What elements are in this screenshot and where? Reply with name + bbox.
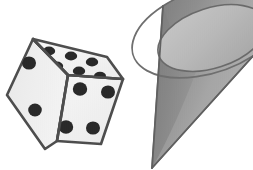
shapes-illustration (0, 0, 253, 170)
scan-texture-overlay (0, 0, 253, 170)
illustration-canvas (0, 0, 253, 170)
